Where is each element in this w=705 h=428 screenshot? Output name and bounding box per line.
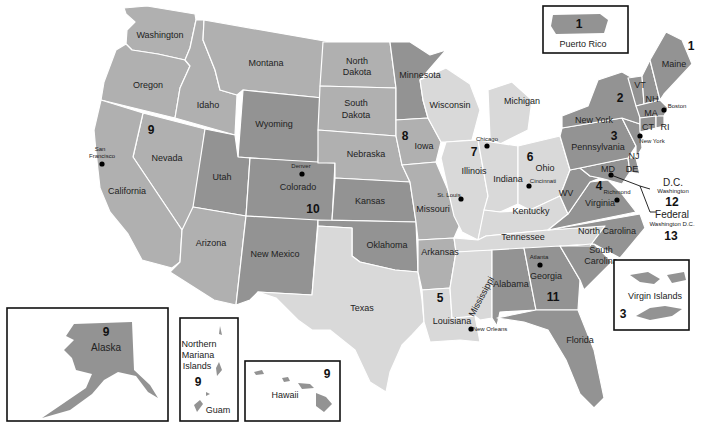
- svg-text:Washington: Washington: [657, 188, 688, 194]
- label-wisconsin: Wisconsin: [429, 100, 470, 110]
- svg-text:Virgin Islands: Virgin Islands: [628, 291, 682, 301]
- region-3-pa: 3: [611, 129, 618, 143]
- label-md: MD: [601, 164, 615, 174]
- inset-virgin-islands[interactable]: Virgin Islands 3: [614, 260, 689, 330]
- region-6: 6: [527, 150, 534, 164]
- label-de: DE: [626, 164, 639, 174]
- region-7: 7: [471, 145, 478, 159]
- svg-text:9: 9: [103, 325, 110, 339]
- label-georgia: Georgia: [530, 271, 562, 281]
- state-arkansas[interactable]: [418, 238, 456, 290]
- label-missouri: Missouri: [416, 204, 450, 214]
- svg-text:Hawaii: Hawaii: [271, 390, 298, 400]
- label-alabama: Alabama: [493, 279, 529, 289]
- svg-text:Richmond: Richmond: [603, 189, 630, 195]
- label-maine: Maine: [662, 59, 687, 69]
- label-ct: CT: [642, 122, 654, 132]
- svg-text:Northern: Northern: [181, 339, 216, 349]
- svg-text:Mariana: Mariana: [182, 350, 215, 360]
- label-wv: WV: [559, 188, 574, 198]
- svg-text:D.C.: D.C.: [663, 177, 683, 188]
- label-indiana: Indiana: [493, 174, 523, 184]
- label-pennsylvania: Pennsylvania: [571, 142, 625, 152]
- label-utah: Utah: [212, 172, 231, 182]
- svg-text:New Orleans: New Orleans: [473, 326, 508, 332]
- region-5: 5: [437, 291, 444, 305]
- label-florida: Florida: [566, 335, 594, 345]
- svg-text:Chicago: Chicago: [476, 136, 499, 142]
- label-ri: RI: [661, 122, 670, 132]
- region-9-nv: 9: [148, 123, 155, 137]
- label-north-dakota-2: Dakota: [343, 67, 372, 77]
- svg-text:Islands: Islands: [183, 361, 212, 371]
- svg-text:Boston: Boston: [668, 103, 687, 109]
- svg-text:9: 9: [195, 375, 202, 389]
- inset-alaska[interactable]: 9 Alaska: [7, 308, 168, 421]
- label-california: California: [108, 186, 146, 196]
- label-nh: NH: [646, 94, 659, 104]
- label-south-carolina-1: South: [589, 245, 613, 255]
- label-iowa: Iowa: [414, 141, 433, 151]
- label-texas: Texas: [350, 303, 374, 313]
- label-montana: Montana: [248, 58, 283, 68]
- label-oregon: Oregon: [133, 80, 163, 90]
- svg-text:Francisco: Francisco: [89, 153, 116, 159]
- region-8: 8: [402, 129, 409, 143]
- label-minnesota: Minnesota: [399, 70, 441, 80]
- label-kansas: Kansas: [355, 196, 386, 206]
- label-north-carolina: North Carolina: [578, 226, 636, 236]
- svg-text:12: 12: [665, 195, 679, 209]
- svg-text:Federal: Federal: [655, 209, 689, 220]
- svg-text:13: 13: [664, 229, 678, 243]
- svg-text:New York: New York: [639, 138, 665, 144]
- svg-text:Puerto Rico: Puerto Rico: [559, 39, 606, 49]
- svg-text:9: 9: [324, 367, 331, 381]
- svg-text:Alaska: Alaska: [91, 342, 121, 353]
- svg-text:Cincinnati: Cincinnati: [530, 178, 556, 184]
- region-4: 4: [596, 179, 603, 193]
- inset-hawaii[interactable]: 9 Hawaii: [245, 361, 340, 421]
- svg-text:Guam: Guam: [206, 405, 231, 415]
- label-ma: MA: [644, 108, 658, 118]
- us-region-map: Washington Oregon Idaho Montana Wyoming …: [0, 0, 705, 428]
- label-vt: VT: [634, 80, 646, 90]
- city-new-york: New York: [637, 133, 665, 144]
- inset-northern-mariana-islands[interactable]: Northern Mariana Islands 9 Guam: [180, 318, 238, 421]
- state-michigan[interactable]: [488, 82, 532, 144]
- city-new-orleans: New Orleans: [468, 326, 507, 332]
- label-oklahoma: Oklahoma: [366, 240, 407, 250]
- svg-text:Washington D.C.: Washington D.C.: [649, 221, 694, 227]
- label-south-carolina-2: Carolina: [584, 256, 618, 266]
- federal-callout: Federal Washington D.C. 13: [649, 209, 694, 243]
- label-ohio: Ohio: [535, 163, 554, 173]
- svg-text:3: 3: [620, 307, 627, 321]
- label-nevada: Nevada: [151, 153, 182, 163]
- label-virginia: Virginia: [585, 198, 615, 208]
- label-wyoming: Wyoming: [255, 119, 292, 129]
- label-michigan: Michigan: [504, 96, 540, 106]
- label-kentucky: Kentucky: [512, 206, 550, 216]
- label-idaho: Idaho: [197, 100, 220, 110]
- label-nj: NJ: [629, 151, 640, 161]
- label-nebraska: Nebraska: [347, 149, 386, 159]
- svg-text:Atlanta: Atlanta: [530, 254, 549, 260]
- label-new-york: New York: [575, 115, 614, 125]
- region-10: 10: [306, 202, 320, 216]
- label-louisiana: Louisiana: [433, 316, 472, 326]
- state-florida[interactable]: [497, 310, 604, 408]
- label-north-dakota-1: North: [346, 56, 368, 66]
- label-tennessee: Tennessee: [501, 232, 545, 242]
- label-south-dakota-2: Dakota: [342, 110, 371, 120]
- label-new-mexico: New Mexico: [250, 249, 299, 259]
- state-new-mexico[interactable]: [236, 216, 318, 305]
- label-illinois: Illinois: [461, 166, 487, 176]
- label-arkansas: Arkansas: [421, 247, 459, 257]
- label-washington: Washington: [136, 30, 183, 40]
- inset-puerto-rico[interactable]: 1 Puerto Rico: [543, 6, 628, 53]
- svg-text:Denver: Denver: [291, 163, 310, 169]
- svg-text:1: 1: [576, 17, 583, 31]
- label-colorado: Colorado: [280, 182, 317, 192]
- region-11: 11: [547, 290, 560, 304]
- region-2: 2: [617, 91, 624, 105]
- svg-text:St. Louis: St. Louis: [437, 192, 460, 198]
